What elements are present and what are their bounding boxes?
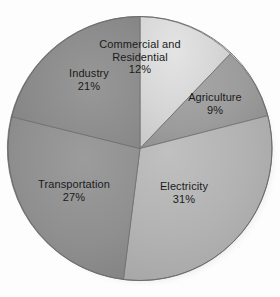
pie-label-electricity: Electricity 31% [144,180,224,205]
pie-label-transportation: Transportation 27% [22,178,126,203]
pie-value-industry: 21% [52,80,126,93]
pie-label-transportation-line1: Transportation [22,178,126,191]
pie-value-agriculture: 9% [172,104,258,117]
pie-value-transportation: 27% [22,191,126,204]
pie-label-agriculture-line1: Agriculture [172,91,258,104]
pie-value-electricity: 31% [144,193,224,206]
pie-chart: Commercial and Residential 12% Agricultu… [0,0,280,297]
pie-label-electricity-line1: Electricity [144,180,224,193]
pie-label-industry: Industry 21% [52,67,126,92]
pie-label-industry-line1: Industry [52,67,126,80]
pie-label-commercial-and-residential-line2: Residential [92,51,188,64]
pie-label-commercial-and-residential-line1: Commercial and [92,38,188,51]
pie-label-agriculture: Agriculture 9% [172,91,258,116]
